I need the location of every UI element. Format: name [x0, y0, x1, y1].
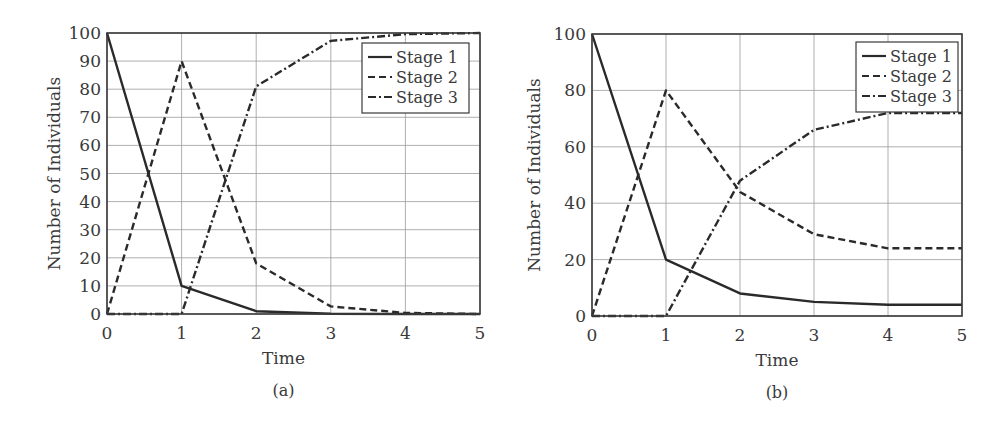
x-tick-label: 5: [475, 323, 486, 343]
x-tick-label: 4: [400, 323, 411, 343]
y-tick-label: 30: [79, 220, 101, 240]
legend-label: Stage 2: [890, 67, 952, 86]
y-tick-label: 40: [564, 193, 586, 213]
x-tick-label: 1: [661, 325, 672, 345]
panel-label: (a): [272, 381, 294, 400]
y-tick-label: 100: [554, 24, 586, 44]
y-tick-label: 80: [564, 80, 586, 100]
x-tick-label: 3: [325, 323, 336, 343]
y-tick-label: 80: [79, 79, 101, 99]
legend-label: Stage 1: [890, 47, 952, 66]
legend-label: Stage 3: [396, 88, 458, 107]
x-tick-label: 1: [176, 323, 187, 343]
y-tick-label: 70: [79, 107, 101, 127]
y-tick-label: 40: [79, 192, 101, 212]
x-tick-label: 4: [883, 325, 894, 345]
y-axis-title: Number of Individuals: [524, 78, 544, 272]
y-tick-label: 100: [69, 23, 101, 43]
legend-label: Stage 3: [890, 87, 952, 106]
y-tick-label: 20: [564, 250, 586, 270]
legend-label: Stage 2: [396, 68, 458, 87]
x-tick-label: 0: [102, 323, 113, 343]
x-tick-label: 0: [587, 325, 598, 345]
chart-panel-a: 0102030405060708090100012345TimeNumber o…: [44, 23, 485, 400]
x-axis-title: Time: [262, 348, 305, 368]
y-tick-label: 50: [79, 164, 101, 184]
x-tick-label: 2: [251, 323, 262, 343]
x-tick-label: 3: [809, 325, 820, 345]
legend: Stage 1Stage 2Stage 3: [856, 42, 958, 112]
y-tick-label: 0: [90, 304, 101, 324]
y-tick-label: 90: [79, 51, 101, 71]
y-tick-label: 20: [79, 248, 101, 268]
legend: Stage 1Stage 2Stage 3: [362, 43, 469, 113]
chart-panel-b: 020406080100012345TimeNumber of Individu…: [524, 24, 967, 402]
panel-label: (b): [766, 383, 789, 402]
y-axis-title: Number of Individuals: [44, 77, 64, 271]
figure: 0102030405060708090100012345TimeNumber o…: [0, 0, 1004, 426]
y-tick-label: 60: [564, 137, 586, 157]
x-tick-label: 5: [957, 325, 968, 345]
x-tick-label: 2: [735, 325, 746, 345]
y-tick-label: 60: [79, 135, 101, 155]
y-tick-label: 0: [575, 306, 586, 326]
y-tick-label: 10: [79, 276, 101, 296]
x-axis-title: Time: [756, 350, 799, 370]
legend-label: Stage 1: [396, 48, 458, 67]
